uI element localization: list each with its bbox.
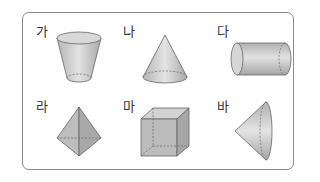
sideways-cone-shape bbox=[233, 100, 273, 162]
label-ga: 가 bbox=[36, 25, 48, 38]
label-ba: 바 bbox=[217, 100, 229, 113]
cone-shape bbox=[140, 33, 190, 85]
cylinder-shape bbox=[229, 41, 295, 77]
label-ra: 라 bbox=[36, 100, 48, 113]
truncated-cone-shape bbox=[54, 30, 104, 86]
bipyramid-shape bbox=[55, 106, 105, 158]
cube-shape bbox=[139, 106, 191, 158]
label-ma: 마 bbox=[123, 100, 135, 113]
label-na: 나 bbox=[123, 25, 135, 38]
label-da: 다 bbox=[217, 25, 229, 38]
